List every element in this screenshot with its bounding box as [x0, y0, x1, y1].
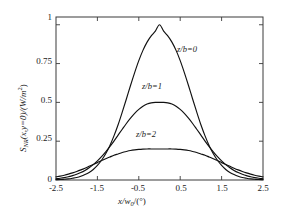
- xtick-label-1: -1.5: [83, 183, 111, 193]
- x-axis-label: x/w0/(°): [118, 196, 146, 207]
- curve-label-zb2: z/b=2: [136, 129, 156, 139]
- xtick-label-4: 1.5: [208, 183, 236, 193]
- ytick-label-3: 0.75: [24, 56, 52, 66]
- y-axis-label: SNR(x,y=0)/(W/m2): [16, 84, 29, 152]
- ytick-label-4: 1: [36, 12, 52, 22]
- curve-label-zb2-text: z/b=2: [136, 129, 156, 139]
- ytick-label-2: 0.5: [28, 95, 52, 105]
- curve-label-zb1-text: z/b=1: [142, 81, 162, 91]
- curve-label-zb1: z/b=1: [142, 81, 162, 91]
- xtick-label-0: -2.5: [42, 183, 70, 193]
- curve-label-zb0: z/b=0: [177, 44, 197, 54]
- y-axis-label-args: (x,y=0)/(W/m: [18, 90, 28, 139]
- y-axis-label-main: S: [18, 148, 28, 153]
- curve-label-zb0-text: z/b=0: [177, 44, 197, 54]
- xtick-label-5: 2.5: [249, 183, 277, 193]
- y-axis-label-tail: ): [18, 84, 28, 87]
- figure-container: 0 0.25 0.5 0.75 1 -2.5 -1.5 -0.5 0.5 1.5…: [0, 0, 283, 215]
- plot-frame: [56, 17, 263, 180]
- xtick-label-2: -0.5: [124, 183, 152, 193]
- x-axis-label-main: x/w: [118, 196, 131, 206]
- y-axis-label-sup: 2: [16, 87, 23, 90]
- xtick-label-3: 0.5: [167, 183, 195, 193]
- y-axis-label-sub: NR: [22, 139, 29, 147]
- x-axis-label-tail: /(°): [134, 196, 146, 206]
